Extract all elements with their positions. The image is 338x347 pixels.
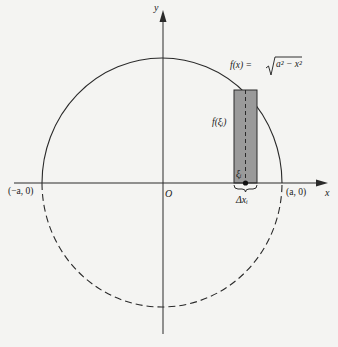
sample-point-label: ξᵢ <box>236 170 242 180</box>
left-point-label: (−a, 0) <box>8 187 33 197</box>
width-label: Δxᵢ <box>236 195 248 205</box>
function-radicand-label: a² − x² <box>276 60 302 70</box>
rect-height-label: f(ξᵢ) <box>212 118 227 128</box>
x-axis-arrow-icon <box>316 180 328 187</box>
x-axis-label: x <box>325 188 329 198</box>
y-axis-arrow-icon <box>160 10 167 22</box>
width-brace <box>234 185 257 192</box>
sample-point <box>243 180 248 185</box>
right-point-label: (a, 0) <box>286 188 306 198</box>
y-axis-label: y <box>154 3 158 13</box>
origin-label: O <box>165 189 172 199</box>
function-lhs-label: f(x) = <box>230 61 252 71</box>
circle-diagram <box>0 0 338 347</box>
